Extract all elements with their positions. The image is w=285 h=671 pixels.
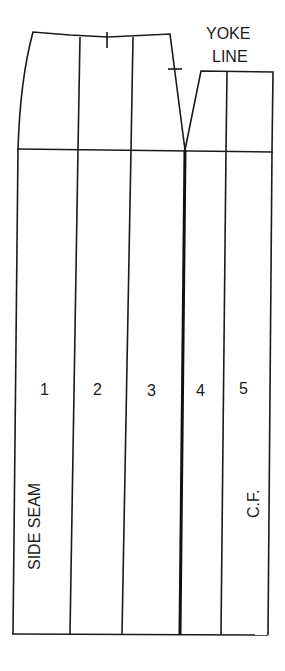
- section-number-2: 2: [93, 381, 102, 398]
- center-front-line: [268, 152, 272, 635]
- yoke-slash-line-2: [131, 37, 133, 150]
- section-number-1: 1: [40, 381, 49, 398]
- yoke-label-line1: YOKE: [206, 25, 250, 42]
- hem-line: [12, 634, 268, 635]
- yoke-line: [17, 149, 273, 152]
- section-number-4: 4: [196, 382, 205, 399]
- slash-line-4: [221, 151, 226, 634]
- yoke-label-line2: LINE: [212, 48, 248, 65]
- yoke-piece-right-outline: [185, 71, 273, 152]
- yoke-slash-line-1: [78, 37, 80, 150]
- yoke-piece-left-outline: [18, 32, 185, 150]
- slash-line-1: [70, 150, 78, 634]
- side-seam-label: SIDE SEAM: [26, 483, 43, 570]
- slash-line-3-heavy: [180, 150, 185, 634]
- section-number-5: 5: [239, 380, 248, 397]
- center-front-label: C.F.: [245, 490, 262, 518]
- yoke-slash-line-5: [226, 72, 227, 151]
- side-seam-line: [13, 149, 18, 634]
- pattern-diagram: YOKE LINE 1 2 3 4 5 SIDE SEAM C.F.: [0, 0, 285, 671]
- slash-line-2: [122, 150, 131, 634]
- section-number-3: 3: [147, 382, 156, 399]
